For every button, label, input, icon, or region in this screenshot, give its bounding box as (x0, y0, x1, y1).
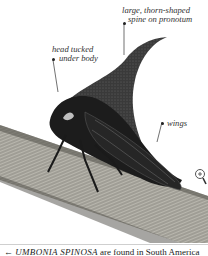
label-wings: wings (167, 119, 187, 128)
label-wings-line1: wings (167, 119, 187, 128)
label-head-line2: under body (52, 54, 98, 63)
wings-label-dot (161, 122, 164, 125)
caption-divider (0, 244, 208, 245)
figure: large, thorn-shaped spine on pronotum he… (0, 0, 208, 256)
magnifier-plus-icon (194, 168, 208, 188)
caption-scientific-name: UMBONIA SPINOSA (15, 247, 98, 256)
label-spine: large, thorn-shaped spine on pronotum (122, 6, 192, 25)
figure-caption: ← UMBONIA SPINOSA are found in South Ame… (4, 247, 200, 256)
caption-text: are found in South America (98, 247, 200, 256)
zoom-in-button[interactable] (194, 168, 208, 188)
label-spine-line2: spine on pronotum (122, 15, 192, 24)
caption-arrow: ← (4, 247, 13, 256)
label-head: head tucked under body (52, 45, 98, 64)
